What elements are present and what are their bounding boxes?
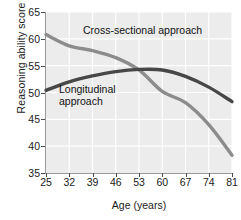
cross-sectional-annotation: Cross-sectional approach xyxy=(83,25,202,37)
y-axis-tick-labels: 35404550556065 xyxy=(14,12,40,173)
x-axis-tick-labels: 253239465360677481 xyxy=(46,176,232,192)
y-tick-label: 45 xyxy=(18,113,40,125)
y-tick-label: 40 xyxy=(18,140,40,152)
y-tick-label: 65 xyxy=(18,6,40,18)
reasoning-ability-chart: Reasoning ability score 35404550556065 2… xyxy=(0,0,241,220)
longitudinal-annotation: Longitudinal approach xyxy=(59,84,116,107)
x-tick-label: 81 xyxy=(217,176,241,188)
y-tick-label: 50 xyxy=(18,87,40,99)
x-axis-title: Age (years) xyxy=(46,199,232,211)
longitudinal-annotation-line1: Longitudinal xyxy=(59,84,116,96)
y-tick-label: 60 xyxy=(18,33,40,45)
longitudinal-annotation-line2: approach xyxy=(59,96,116,108)
y-tick-label: 55 xyxy=(18,60,40,72)
